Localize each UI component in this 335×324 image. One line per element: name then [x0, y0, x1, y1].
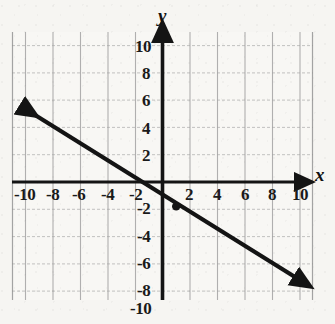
- x-tick-6: 6: [241, 186, 249, 203]
- x-tick-neg4: -4: [101, 186, 114, 203]
- x-tick-neg10: -10: [14, 186, 35, 203]
- y-tick-neg4: -4: [137, 228, 150, 245]
- y-tick-neg8: -8: [137, 282, 150, 299]
- y-tick-neg10: -10: [130, 300, 151, 317]
- graph-figure: -10 -8 -6 -4 -2 2 4 6 8 10 10 8 6 4 2 -2…: [0, 0, 335, 324]
- x-tick-2: 2: [185, 186, 193, 203]
- y-tick-4: 4: [142, 120, 150, 137]
- coordinate-plane: [0, 0, 335, 324]
- x-tick-neg8: -8: [46, 186, 59, 203]
- y-axis-label: y: [158, 6, 166, 25]
- x-tick-neg6: -6: [72, 186, 85, 203]
- x-tick-10: 10: [292, 186, 308, 203]
- marked-point: [172, 202, 180, 210]
- x-tick-4: 4: [213, 186, 221, 203]
- y-tick-6: 6: [142, 92, 150, 109]
- y-tick-8: 8: [142, 65, 150, 82]
- y-tick-neg6: -6: [137, 255, 150, 272]
- x-tick-8: 8: [268, 186, 276, 203]
- y-tick-10: 10: [135, 38, 151, 55]
- y-tick-neg2: -2: [137, 200, 150, 217]
- x-axis-label: x: [315, 165, 325, 184]
- y-tick-2: 2: [142, 147, 150, 164]
